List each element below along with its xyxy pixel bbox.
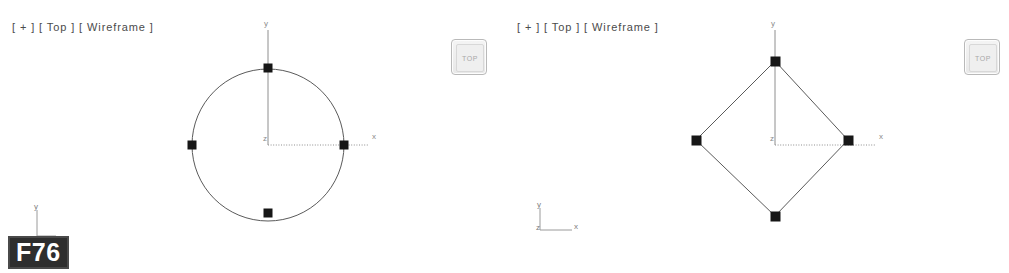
control-vertex-right[interactable] — [340, 141, 348, 149]
viewport-left-scene: y z x — [0, 0, 505, 273]
tripod-y-label: y — [537, 200, 541, 209]
axis-y-label: y — [264, 19, 268, 28]
control-vertex-top[interactable] — [264, 64, 272, 72]
frame-number-badge: F76 — [8, 236, 69, 269]
axis-x-label: x — [879, 132, 883, 141]
control-vertex-top[interactable] — [771, 57, 780, 66]
axis-z-label: z — [770, 134, 774, 143]
control-vertex-right[interactable] — [844, 136, 853, 145]
frame-badge-tripod: y — [26, 200, 66, 240]
tripod-z-label: z — [536, 223, 540, 232]
viewport-left[interactable]: [ + ] [ Top ] [ Wireframe ] TOP y z x — [0, 0, 505, 273]
axis-y-label: y — [771, 19, 775, 28]
tripod-x-label: x — [574, 222, 578, 231]
control-vertex-bottom[interactable] — [771, 212, 780, 221]
control-vertex-left[interactable] — [188, 141, 196, 149]
control-vertex-left[interactable] — [692, 136, 701, 145]
control-vertex-bottom[interactable] — [264, 209, 272, 217]
axis-x-label: x — [372, 132, 376, 141]
world-axis-tripod: y z x — [530, 200, 590, 240]
axis-z-label: z — [263, 134, 267, 143]
tripod-y-label: y — [34, 202, 38, 211]
